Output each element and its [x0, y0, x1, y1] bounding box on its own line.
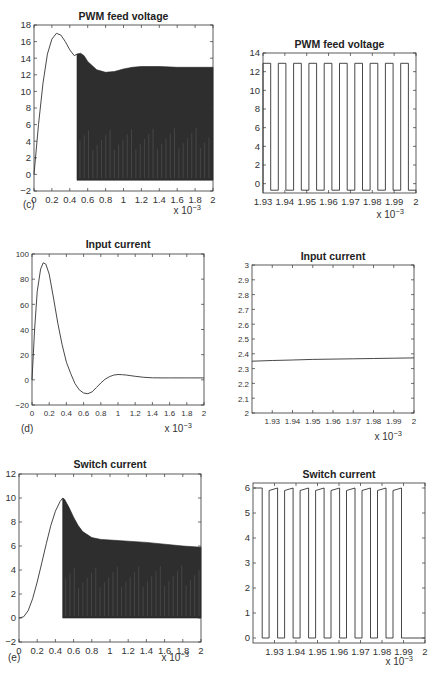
- y-tick-label: 4: [255, 141, 260, 152]
- x-tick-label: 1.2: [135, 194, 148, 205]
- axes-frame: [253, 483, 425, 643]
- y-tick-label: 12: [5, 468, 16, 479]
- x-tick-label: 0.4: [49, 645, 62, 656]
- plot-area: [19, 498, 201, 618]
- x-tick-label: 1.96: [319, 196, 338, 207]
- x-tick-label: 1.97: [345, 417, 361, 426]
- data-line: [254, 488, 425, 638]
- plot-area: [34, 33, 213, 180]
- chart-title: Input current: [86, 238, 151, 250]
- panel-label: (e): [8, 652, 20, 663]
- y-tick-label: −20: [15, 401, 29, 410]
- y-tick-label: 0: [26, 169, 31, 180]
- y-tick-label: 2.2: [238, 380, 250, 389]
- y-tick-label: −2: [5, 636, 16, 647]
- panel-label: (c): [23, 199, 35, 210]
- x-tick-label: 0.4: [61, 409, 73, 418]
- chart-title: PWM feed voltage: [79, 10, 169, 22]
- plot-area: [254, 488, 425, 638]
- x-tick-label: 1.95: [297, 196, 316, 207]
- chart-title: Switch current: [74, 458, 147, 470]
- data-line: [19, 498, 63, 618]
- y-tick-label: −2: [20, 185, 31, 196]
- y-tick-label: 12: [20, 69, 31, 80]
- y-tick-label: 3: [245, 557, 250, 568]
- chart-c-left: PWM feed voltage00.20.40.60.811.21.41.61…: [20, 10, 215, 216]
- y-tick-label: 4: [26, 136, 31, 147]
- y-tick-label: 60: [20, 301, 29, 310]
- x-tick-label: 1.97: [351, 646, 370, 657]
- x-tick-label: 1.94: [276, 196, 295, 207]
- x-tick-label: 0.2: [31, 645, 44, 656]
- x-tick-label: 1.98: [366, 417, 382, 426]
- y-tick-label: 8: [255, 103, 260, 114]
- x-tick-label: 1.95: [305, 417, 321, 426]
- x-tick-label: 0.8: [99, 194, 112, 205]
- y-axis: 0123456: [245, 482, 425, 643]
- x-tick-label: 1.93: [265, 646, 284, 657]
- y-tick-label: 2.8: [238, 291, 250, 300]
- x-tick-label: 1.93: [254, 196, 273, 207]
- x-tick-label: 1: [107, 645, 112, 656]
- x-tick-label: 0.6: [81, 194, 94, 205]
- y-tick-label: 0: [11, 612, 16, 623]
- x-tick-label: 1.4: [153, 194, 166, 205]
- x-tick-label: 1.4: [140, 645, 153, 656]
- y-tick-label: 8: [26, 102, 31, 113]
- x-tick-label: 0.8: [95, 409, 107, 418]
- y-tick-label: 40: [20, 326, 29, 335]
- y-tick-label: 12: [249, 66, 260, 77]
- y-tick-label: 2.5: [238, 335, 250, 344]
- x-axis: 00.20.40.60.811.21.41.61.82: [30, 254, 207, 418]
- y-tick-label: 2: [11, 588, 16, 599]
- y-tick-label: 14: [20, 53, 31, 64]
- plot-area: [263, 63, 416, 190]
- data-line: [34, 33, 77, 174]
- y-axis: 22.12.22.32.42.52.62.72.82.93: [238, 261, 414, 418]
- x-axis: 1.931.941.951.961.971.981.992: [264, 265, 416, 426]
- y-axis: −20020406080100: [15, 250, 204, 410]
- y-tick-label: 14: [249, 47, 260, 58]
- y-tick-label: 18: [20, 19, 31, 30]
- x-multiplier: x 10−3: [377, 207, 404, 220]
- chart-title: Switch current: [303, 468, 376, 480]
- x-tick-label: 1.8: [181, 409, 193, 418]
- y-tick-label: 6: [245, 482, 250, 493]
- data-line: [263, 63, 416, 190]
- x-tick-label: 1.96: [330, 646, 349, 657]
- y-tick-label: 4: [11, 564, 16, 575]
- y-tick-label: 2.9: [238, 276, 250, 285]
- figure-canvas: PWM feed voltage00.20.40.60.811.21.41.61…: [0, 0, 437, 676]
- x-tick-label: 2: [422, 646, 427, 657]
- x-tick-label: 0.2: [45, 194, 58, 205]
- panel-label: (d): [21, 423, 33, 434]
- y-tick-label: 2: [26, 152, 31, 163]
- y-tick-label: 2: [245, 582, 250, 593]
- y-tick-label: 20: [20, 351, 29, 360]
- pwm-filled-region: [63, 498, 201, 618]
- y-tick-label: 2.7: [238, 306, 250, 315]
- x-tick-label: 1: [121, 194, 126, 205]
- x-tick-label: 1: [116, 409, 121, 418]
- x-tick-label: 1.4: [147, 409, 159, 418]
- y-tick-label: 8: [11, 516, 16, 527]
- x-tick-label: 1.99: [386, 417, 402, 426]
- chart-e-right: Switch current1.931.941.951.961.971.981.…: [245, 468, 428, 667]
- y-tick-label: 0: [245, 632, 250, 643]
- data-line: [252, 358, 414, 361]
- x-tick-label: 1.94: [287, 646, 306, 657]
- y-tick-label: 1: [245, 607, 250, 618]
- x-multiplier: x 10−3: [162, 650, 189, 663]
- x-tick-label: 1.2: [130, 409, 142, 418]
- chart-title: Input current: [301, 250, 366, 262]
- y-tick-label: 2.3: [238, 365, 250, 374]
- x-multiplier: x 10−3: [165, 421, 192, 434]
- x-tick-label: 0.6: [78, 409, 90, 418]
- x-tick-label: 2: [210, 194, 215, 205]
- chart-e-left: Switch current00.20.40.60.811.21.41.61.8…: [5, 458, 203, 663]
- y-tick-label: 16: [20, 36, 31, 47]
- x-tick-label: 1.96: [325, 417, 341, 426]
- x-tick-label: 0: [30, 409, 35, 418]
- chart-c-right: PWM feed voltage1.931.941.951.961.971.98…: [249, 38, 418, 220]
- y-tick-label: 80: [20, 275, 29, 284]
